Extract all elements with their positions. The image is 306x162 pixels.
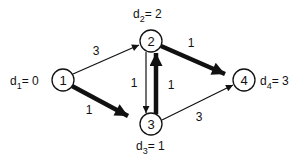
weight-2-4: 1 bbox=[188, 36, 195, 50]
node-4: 4 bbox=[233, 69, 255, 91]
distance-label-4: d4= 3 bbox=[260, 74, 289, 91]
edge-1-to-3 bbox=[72, 86, 128, 116]
edge-1-to-2 bbox=[73, 45, 139, 74]
weight-3-2: 1 bbox=[168, 78, 175, 92]
shortest-path-graph: 3 1 1 1 1 3 1 2 3 4 d1= 0 d2= 2 d3= 1 d4… bbox=[0, 0, 306, 162]
edge-2-to-4 bbox=[161, 46, 225, 74]
weight-1-2: 3 bbox=[93, 44, 100, 58]
weight-2-3: 1 bbox=[131, 76, 138, 90]
distance-label-1: d1= 0 bbox=[10, 74, 39, 91]
distance-label-2: d2= 2 bbox=[133, 7, 162, 24]
node-4-label: 4 bbox=[240, 73, 247, 88]
node-3: 3 bbox=[140, 113, 162, 135]
node-1-label: 1 bbox=[59, 73, 66, 88]
weight-1-3: 1 bbox=[86, 103, 93, 117]
distance-label-3: d3= 1 bbox=[136, 139, 165, 156]
node-3-label: 3 bbox=[147, 117, 154, 132]
node-1: 1 bbox=[52, 69, 74, 91]
node-2: 2 bbox=[140, 30, 162, 52]
weight-3-4: 3 bbox=[196, 110, 203, 124]
node-2-label: 2 bbox=[147, 34, 154, 49]
